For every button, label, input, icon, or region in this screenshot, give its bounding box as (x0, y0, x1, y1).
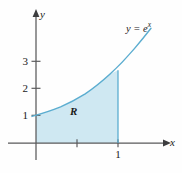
y-axis-label: y (40, 9, 45, 20)
y-tick-label-2: 2 (16, 83, 28, 94)
x-tick-label-1: 1 (112, 149, 124, 160)
calculus-figure: y x y = ex R 1 2 3 1 (0, 0, 182, 173)
curve-equation-base: y = e (126, 23, 148, 34)
y-tick-label-3: 3 (16, 56, 28, 67)
x-axis-label: x (170, 137, 175, 148)
y-tick-label-1: 1 (16, 110, 28, 121)
region-label-R: R (70, 106, 77, 117)
curve-equation-label: y = ex (126, 21, 151, 34)
curve-equation-exponent: x (148, 20, 151, 29)
y-axis-arrowhead (33, 9, 40, 17)
